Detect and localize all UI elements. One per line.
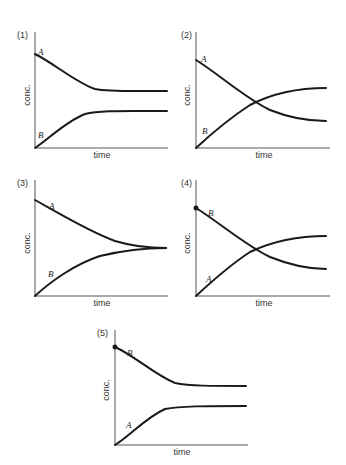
x-axis-label: time <box>173 447 190 457</box>
series-label-a: A <box>37 47 44 57</box>
panel-3: (3) conc. time A B <box>17 178 168 308</box>
series-label-a: A <box>125 420 132 430</box>
panel-label: (2) <box>181 30 192 40</box>
panel-1: (1) conc. time A B <box>17 30 168 160</box>
y-axis-label: conc. <box>182 84 192 106</box>
series-label-a: A <box>205 274 212 284</box>
series-b-curve <box>115 347 246 386</box>
series-a-curve <box>35 54 167 91</box>
panel-label: (5) <box>97 328 108 338</box>
series-b-curve <box>196 208 326 269</box>
series-label-b: B <box>202 126 208 136</box>
series-a-curve <box>196 60 326 121</box>
series-a-curve <box>115 406 246 445</box>
series-label-b: B <box>208 208 214 218</box>
x-axis-label: time <box>255 298 272 308</box>
series-b-curve <box>196 88 326 148</box>
series-b-start-marker <box>113 345 118 350</box>
y-axis-label: conc. <box>182 232 192 254</box>
panel-4: (4) conc. time B A <box>181 178 330 308</box>
series-label-a: A <box>200 54 207 64</box>
panel-label: (4) <box>181 178 192 188</box>
y-axis-label: conc. <box>22 232 32 254</box>
panel-label: (3) <box>17 178 28 188</box>
series-a-curve <box>35 200 166 248</box>
x-axis-label: time <box>255 150 272 160</box>
y-axis-label: conc. <box>101 379 111 401</box>
x-axis-label: time <box>93 298 110 308</box>
series-b-start-marker <box>194 206 199 211</box>
series-label-a: A <box>48 201 55 211</box>
series-label-b: B <box>38 130 44 140</box>
series-b-curve <box>35 248 166 296</box>
y-axis-label: conc. <box>22 84 32 106</box>
series-a-curve <box>196 236 326 296</box>
panel-2: (2) conc. time A B <box>181 30 330 160</box>
panel-5: (5) conc. time B A <box>97 328 248 457</box>
series-b-curve <box>35 111 167 148</box>
series-label-b: B <box>127 348 133 358</box>
x-axis-label: time <box>93 150 110 160</box>
panel-label: (1) <box>17 30 28 40</box>
kinetics-figure: (1) conc. time A B (2) conc. time A B (3… <box>0 0 346 465</box>
series-label-b: B <box>48 269 54 279</box>
